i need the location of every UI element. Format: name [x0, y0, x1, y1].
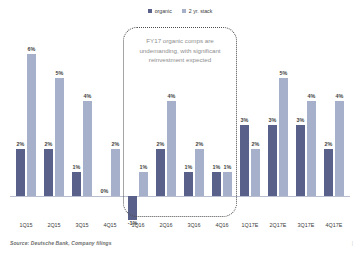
callout-text: FY17 organic comps are undemanding, with… [127, 36, 233, 65]
bar-organic[interactable] [212, 172, 222, 196]
bar-value-label: 2% [45, 142, 53, 147]
bar-value-label: 6% [28, 47, 36, 52]
bar-value-label: 1% [140, 165, 148, 170]
bar-value-label: 5% [56, 71, 64, 76]
square-swatch-icon [182, 9, 187, 14]
x-tick-label: 1Q16 [124, 222, 152, 228]
chart-legend: organic 2 yr. stack [0, 8, 360, 14]
square-swatch-icon [148, 9, 153, 14]
source-note: Source: Deutsche Bank, Company filings [10, 240, 112, 246]
x-tick-label: 3Q17E [292, 222, 320, 228]
legend-label: 2 yr. stack [189, 8, 213, 14]
x-tick-label: 1Q15 [12, 222, 40, 228]
bar-2yr-stack[interactable] [335, 101, 345, 196]
bar-value-label: 4% [308, 94, 316, 99]
x-tick-label: 1Q17E [236, 222, 264, 228]
bar-2yr-stack[interactable] [167, 101, 177, 196]
bar-organic[interactable] [184, 172, 194, 196]
x-tick-label: 4Q15 [96, 222, 124, 228]
bar-group: 2%6% [12, 22, 40, 218]
bar-value-label: 1% [185, 165, 193, 170]
bar-2yr-stack[interactable] [251, 149, 261, 196]
x-tick-label: 3Q15 [68, 222, 96, 228]
bar-2yr-stack[interactable] [195, 149, 205, 196]
x-tick-label: 4Q16 [208, 222, 236, 228]
bar-value-label: 4% [336, 94, 344, 99]
bar-organic[interactable] [268, 125, 278, 196]
legend-item-2yr-stack: 2 yr. stack [182, 8, 213, 14]
bar-group: 2%5% [40, 22, 68, 218]
bar-group: 2%4% [320, 22, 348, 218]
bar-value-label: 3% [241, 118, 249, 123]
bar-value-label: 1% [224, 165, 232, 170]
bar-2yr-stack[interactable] [279, 78, 289, 196]
bar-value-label: 2% [252, 142, 260, 147]
x-tick-label: 4Q17E [320, 222, 348, 228]
bar-slot: 2% [111, 22, 121, 196]
bar-value-label: 0% [101, 189, 109, 194]
bar-slot: 2% [16, 22, 26, 196]
bar-group-bars: 0%2% [96, 22, 124, 196]
bar-value-label: 2% [17, 142, 25, 147]
bar-group: 3%5% [264, 22, 292, 218]
bar-slot: 4% [83, 22, 93, 196]
bar-2yr-stack[interactable] [27, 54, 37, 196]
bar-value-label: 4% [84, 94, 92, 99]
bar-organic[interactable] [240, 125, 250, 196]
x-axis-tick-labels: 1Q152Q153Q154Q151Q162Q163Q164Q161Q17E2Q1… [8, 222, 352, 228]
bar-slot: 2% [251, 22, 261, 196]
bar-value-label: 2% [157, 142, 165, 147]
x-tick-label: 3Q16 [180, 222, 208, 228]
bar-group: 3%4% [292, 22, 320, 218]
bar-2yr-stack[interactable] [55, 78, 65, 196]
bar-2yr-stack[interactable] [111, 149, 121, 196]
bar-2yr-stack[interactable] [83, 101, 93, 196]
bar-slot: 1% [72, 22, 82, 196]
bar-value-label: 4% [168, 94, 176, 99]
bar-organic[interactable] [156, 149, 166, 196]
bar-slot: 2% [324, 22, 334, 196]
bar-slot: 4% [307, 22, 317, 196]
bar-group-bars: 3%5% [264, 22, 292, 196]
bar-group: 1%4% [68, 22, 96, 218]
bar-slot: 6% [27, 22, 37, 196]
bar-organic[interactable] [72, 172, 82, 196]
bar-group-bars: 3%2% [236, 22, 264, 196]
page-mark: | [352, 240, 353, 246]
bar-organic[interactable] [324, 149, 334, 196]
bar-group-bars: 1%4% [68, 22, 96, 196]
x-tick-label: 2Q15 [40, 222, 68, 228]
bar-group-bars: 2%6% [12, 22, 40, 196]
x-tick-label: 2Q17E [264, 222, 292, 228]
bar-slot: 3% [268, 22, 278, 196]
bar-2yr-stack[interactable] [139, 172, 149, 196]
bar-slot: 3% [240, 22, 250, 196]
bar-group-bars: 2%5% [40, 22, 68, 196]
bar-value-label: 2% [196, 142, 204, 147]
bar-slot: 2% [44, 22, 54, 196]
bar-slot: 5% [279, 22, 289, 196]
bar-value-label: 1% [213, 165, 221, 170]
bar-value-label: 2% [325, 142, 333, 147]
bar-organic[interactable] [44, 149, 54, 196]
bar-organic[interactable] [16, 149, 26, 196]
bar-value-label: 2% [112, 142, 120, 147]
bar-group-bars: 2%4% [320, 22, 348, 196]
legend-item-organic: organic [148, 8, 172, 14]
bar-slot: 3% [296, 22, 306, 196]
bar-value-label: 3% [297, 118, 305, 123]
bar-slot: 5% [55, 22, 65, 196]
bar-value-label: 5% [280, 71, 288, 76]
legend-label: organic [155, 8, 172, 14]
bar-2yr-stack[interactable] [223, 172, 233, 196]
bar-value-label: 1% [73, 165, 81, 170]
bar-organic[interactable] [128, 196, 138, 220]
bar-group-bars: 3%4% [292, 22, 320, 196]
bar-group: 0%2% [96, 22, 124, 218]
bar-slot: 4% [335, 22, 345, 196]
bar-slot: 0% [100, 22, 110, 196]
bar-group: 3%2% [236, 22, 264, 218]
bar-value-label: 3% [269, 118, 277, 123]
bar-2yr-stack[interactable] [307, 101, 317, 196]
bar-organic[interactable] [296, 125, 306, 196]
